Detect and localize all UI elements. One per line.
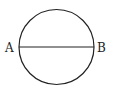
point-label-a: A [4,41,14,55]
point-label-b: B [97,41,106,55]
diagram-canvas: A B [0,0,113,90]
